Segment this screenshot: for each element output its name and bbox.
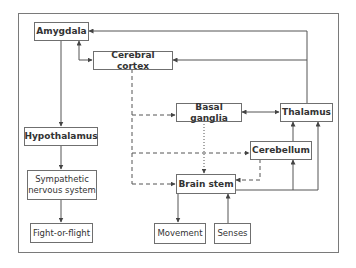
node-label: Movement xyxy=(157,228,202,239)
node-basal-ganglia: Basal ganglia xyxy=(176,103,242,122)
node-label: Cerebellum xyxy=(252,145,310,156)
edge-amygdala-cortex xyxy=(79,41,92,60)
node-cerebellum: Cerebellum xyxy=(250,141,312,160)
node-amygdala: Amygdala xyxy=(34,22,89,41)
node-label: Basal ganglia xyxy=(177,102,241,124)
node-label: Thalamus xyxy=(282,107,331,118)
brain-pathways-diagram: Amygdala Cerebral cortex Basal ganglia T… xyxy=(0,0,356,268)
node-brain-stem: Brain stem xyxy=(176,174,236,194)
node-label: Brain stem xyxy=(178,179,233,190)
node-label: Fight-or-flight xyxy=(33,228,90,239)
node-fight-or-flight: Fight-or-flight xyxy=(30,223,93,243)
node-sympathetic-nervous-system: Sympathetic nervous system xyxy=(27,170,97,200)
node-senses: Senses xyxy=(214,223,251,244)
node-label: Cerebral cortex xyxy=(94,50,172,72)
edge-cerebellum-brainstem xyxy=(236,159,260,180)
node-movement: Movement xyxy=(154,223,206,244)
node-label: Hypothalamus xyxy=(24,131,97,142)
node-label: Amygdala xyxy=(36,26,86,37)
node-cerebral-cortex: Cerebral cortex xyxy=(93,51,173,70)
node-thalamus: Thalamus xyxy=(280,103,333,122)
node-hypothalamus: Hypothalamus xyxy=(24,127,98,146)
node-label-line1: Sympathetic xyxy=(35,174,89,185)
node-label-line2: nervous system xyxy=(28,185,96,196)
node-label: Senses xyxy=(217,228,247,239)
